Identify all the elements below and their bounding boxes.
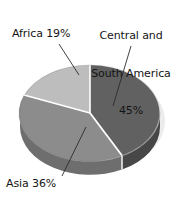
slice-label-csa-value: 45%: [88, 105, 174, 118]
slice-label-csa-line1: Central and: [88, 30, 174, 43]
slice-label-central-and-south-america: Central and South America 45%: [88, 5, 174, 143]
pie-chart-figure: Central and South America 45% Africa 19%…: [0, 0, 175, 201]
slice-label-csa-line2: South America: [88, 68, 174, 81]
slice-label-asia: Asia 36%: [6, 178, 86, 191]
slice-label-africa: Africa 19%: [12, 28, 92, 41]
